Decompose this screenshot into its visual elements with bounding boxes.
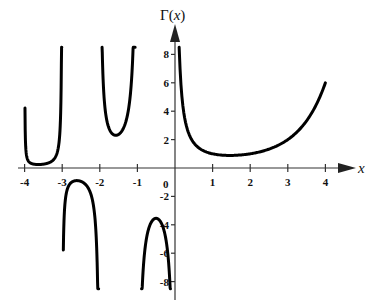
x-tick-label: -1	[133, 176, 142, 188]
gamma-curve-branch	[63, 181, 98, 289]
gamma-curve-branch	[102, 47, 135, 135]
y-tick-label: -2	[160, 190, 170, 202]
y-tick-label: -8	[160, 276, 170, 288]
x-axis-arrow-icon	[338, 163, 356, 173]
x-tick-label: -3	[58, 176, 68, 188]
x-axis-title: x	[357, 160, 365, 176]
x-tick-label: 4	[323, 176, 329, 188]
x-tick-label: 3	[285, 176, 291, 188]
gamma-function-plot: -4-3-2-11234 -8-6-4-22468 Γ(x) x 0	[0, 0, 374, 304]
y-tick-label: 8	[164, 48, 170, 60]
y-tick-label: 2	[164, 134, 170, 146]
y-tick-label: 6	[164, 77, 170, 89]
gamma-curve-branch	[25, 47, 62, 164]
x-tick-label: -2	[95, 176, 105, 188]
origin-label: 0	[163, 178, 169, 190]
gamma-curve-branch	[179, 47, 325, 155]
y-tick-label: 4	[164, 105, 170, 117]
y-axis-title: Γ(x)	[160, 7, 185, 24]
x-tick-label: 2	[247, 176, 253, 188]
y-axis-arrow-icon	[170, 24, 180, 42]
x-tick-label: 1	[210, 176, 216, 188]
x-tick-label: -4	[20, 176, 30, 188]
